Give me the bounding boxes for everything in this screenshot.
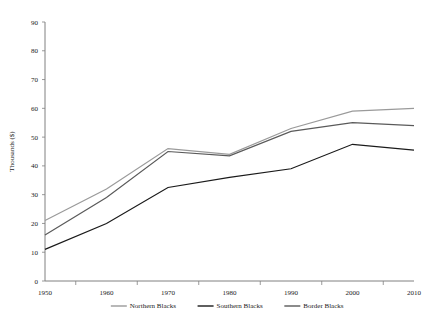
y-axis-title: Thousands ($)	[8, 131, 16, 172]
legend-label-southern-blacks: Southern Blacks	[217, 302, 263, 310]
chart-legend: Northern BlacksSouthern BlacksBorder Bla…	[111, 302, 344, 310]
y-tick-label: 80	[31, 47, 39, 55]
x-tick-label: 1990	[284, 289, 299, 297]
x-tick-label: 1970	[161, 289, 176, 297]
y-tick-label: 0	[35, 278, 39, 286]
y-tick-label: 50	[31, 134, 39, 142]
y-tick-label: 60	[31, 105, 39, 113]
y-axis-title-group: Thousands ($)	[8, 131, 16, 172]
y-tick-label: 90	[31, 19, 39, 27]
line-chart-container: Thousands ($) 0102030405060708090 195019…	[0, 0, 426, 326]
series-group	[45, 108, 414, 249]
y-tick-label: 30	[31, 191, 39, 199]
x-tick-label: 1960	[100, 289, 115, 297]
axis-lines	[45, 22, 414, 281]
x-axis-ticks: 1950196019701980199020002010	[38, 281, 422, 297]
legend-label-northern-blacks: Northern Blacks	[130, 302, 176, 310]
x-tick-label: 1980	[223, 289, 238, 297]
y-axis-ticks: 0102030405060708090	[31, 19, 45, 286]
series-line-southern-blacks	[45, 144, 414, 249]
series-line-border-blacks	[45, 123, 414, 235]
y-tick-label: 10	[31, 249, 39, 257]
x-tick-label: 1950	[38, 289, 53, 297]
legend-label-border-blacks: Border Blacks	[303, 302, 344, 310]
x-tick-label: 2010	[407, 289, 422, 297]
y-tick-label: 20	[31, 220, 39, 228]
chart-svg: Thousands ($) 0102030405060708090 195019…	[0, 0, 426, 326]
x-tick-label: 2000	[346, 289, 361, 297]
series-line-northern-blacks	[45, 108, 414, 220]
y-tick-label: 40	[31, 162, 39, 170]
y-tick-label: 70	[31, 76, 39, 84]
